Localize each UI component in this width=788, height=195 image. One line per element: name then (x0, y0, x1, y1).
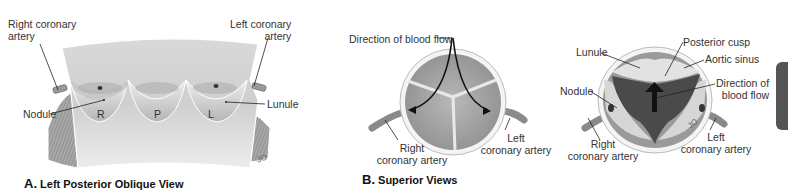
label-line-1: Right coronary (8, 18, 76, 30)
label-cusp-p: P (154, 108, 161, 120)
label-right-coronary-artery-b2: Right coronary artery (563, 138, 643, 162)
label-line-1: Left coronary (230, 18, 291, 30)
label-line-2: coronary artery (367, 154, 457, 166)
label-direction-blood-flow-b2: Direction of blood flow (716, 77, 769, 101)
label-line-2: blood flow (716, 89, 769, 101)
caption-letter: A. (24, 176, 37, 191)
label-line-2: coronary artery (563, 150, 643, 162)
label-aortic-sinus: Aortic sinus (705, 53, 759, 65)
label-line-2: coronary artery (676, 143, 756, 155)
label-line-1: Direction of (716, 77, 769, 89)
label-line-2: artery (8, 30, 76, 42)
caption-panel-b: B. Superior Views (362, 172, 457, 187)
right-coronary-artery (372, 112, 404, 128)
label-lunule-b: Lunule (576, 46, 608, 58)
caption-text: Left Posterior Oblique View (40, 178, 183, 190)
label-line-1: Right (367, 142, 457, 154)
label-nodule: Nodule (23, 108, 56, 120)
label-nodule-b: Nodule (560, 85, 593, 97)
label-line-1: Left (471, 132, 561, 144)
caption-panel-a: A. Left Posterior Oblique View (24, 176, 184, 191)
label-left-coronary-artery-b1: Left coronary artery (471, 132, 561, 156)
label-right-coronary-artery-b1: Right coronary artery (367, 142, 457, 166)
label-cusp-r: R (97, 108, 105, 120)
label-left-coronary-artery: Left coronary artery (230, 18, 291, 42)
label-line-2: coronary artery (471, 144, 561, 156)
caption-text: Superior Views (378, 174, 457, 186)
flow-arrow-shaft (652, 90, 657, 112)
chapter-side-tab (776, 62, 788, 130)
label-cusp-l: L (208, 108, 214, 120)
label-lunule: Lunule (267, 98, 299, 110)
right-coronary-ostium (98, 86, 103, 90)
label-line-1: Right (563, 138, 643, 150)
label-right-coronary-artery: Right coronary artery (8, 18, 76, 42)
label-left-coronary-artery-b2: Left coronary artery (676, 131, 756, 155)
label-posterior-cusp: Posterior cusp (683, 36, 750, 48)
label-direction-of-blood-flow: Direction of blood flow (349, 33, 452, 45)
caption-letter: B. (362, 172, 375, 187)
label-line-1: Left (676, 131, 756, 143)
label-line-2: artery (230, 30, 291, 42)
panel-a-drawing (40, 38, 270, 168)
left-coronary-ostium (214, 84, 219, 88)
